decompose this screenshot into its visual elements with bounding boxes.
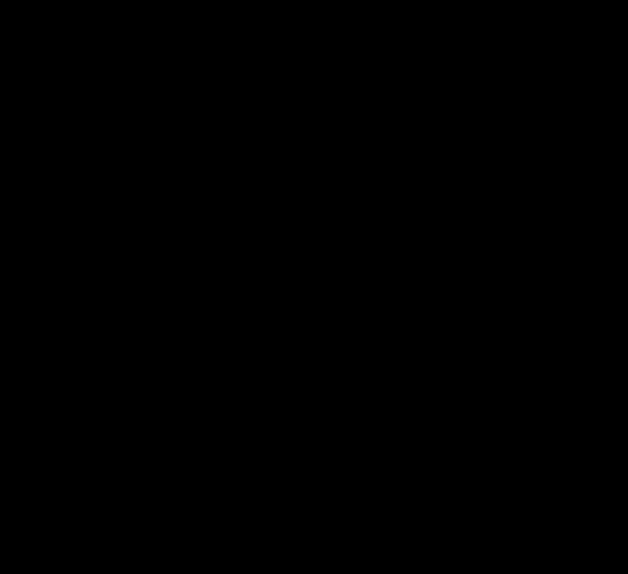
venn-diagram-canvas bbox=[0, 0, 628, 574]
diagram-background bbox=[0, 0, 628, 574]
venn-diagram-svg bbox=[0, 0, 628, 574]
